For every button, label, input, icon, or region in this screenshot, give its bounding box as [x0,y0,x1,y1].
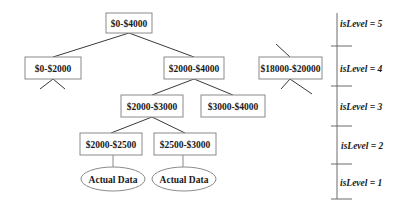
edge-2000-3000-to-2500-3000 [152,117,185,133]
tree-node-0-2000: $0-$2000 [25,57,81,79]
leaf-label: Actual Data [160,175,209,185]
tree-diagram: $0-$4000 $0-$2000 $2000-$4000 $18000-$20… [0,0,400,210]
tree-node-18000-20000: $18000-$20000 [259,57,322,79]
edge-2000-4000-to-3000-4000 [194,79,233,95]
tree-node-3000-4000: $3000-$4000 [201,95,265,117]
edge-stub-0-2000-right [53,79,65,89]
level-label-3: isLevel = 3 [340,102,383,112]
edge-2000-4000-to-2000-3000 [152,79,194,95]
tree-node-2000-2500: $2000-$2500 [80,133,142,155]
node-label: $2000-$3000 [127,102,178,112]
level-label-5: isLevel = 5 [340,19,383,29]
node-label: $2000-$2500 [86,140,137,150]
edge-stub-18000-below-left [281,79,290,89]
tree-node-2500-3000: $2500-$3000 [154,133,216,155]
node-label: $2000-$4000 [169,64,220,74]
node-label: $3000-$4000 [208,102,259,112]
level-label-2: isLevel = 2 [341,141,384,151]
level-label-1: isLevel = 1 [340,178,382,188]
node-label: $18000-$20000 [260,64,320,74]
leaf-actual-data-1: Actual Data [81,167,145,191]
level-label-4: isLevel = 4 [340,64,383,74]
leaf-actual-data-2: Actual Data [152,167,216,191]
node-label: $0-$4000 [111,19,148,29]
edge-2000-3000-to-2000-2500 [111,117,152,133]
node-label: $0-$2000 [35,64,72,74]
edge-stub-18000-above [276,44,290,57]
edge-root-to-2000-4000 [129,33,194,57]
level-axis: isLevel = 5 isLevel = 4 isLevel = 3 isLe… [331,13,384,199]
edge-root-to-0-2000 [53,33,129,57]
edge-stub-0-2000-left [40,79,53,89]
tree-node-2000-3000: $2000-$3000 [121,95,183,117]
tree-node-2000-4000: $2000-$4000 [164,57,224,79]
edge-stub-18000-below-right [290,79,312,94]
leaf-label: Actual Data [89,175,138,185]
tree-node-root: $0-$4000 [106,13,152,33]
node-label: $2500-$3000 [160,140,211,150]
